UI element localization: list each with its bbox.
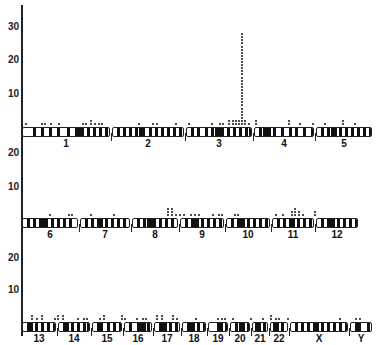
count-dot — [342, 123, 344, 125]
count-dot — [241, 46, 243, 48]
count-dot — [244, 120, 246, 122]
count-dot — [342, 120, 344, 122]
band — [143, 219, 146, 227]
band — [281, 323, 284, 331]
count-dot — [314, 211, 316, 213]
band — [295, 128, 298, 136]
count-dot — [71, 214, 73, 216]
band — [205, 128, 208, 136]
band — [273, 128, 276, 136]
chromosome-label: 5 — [334, 139, 354, 149]
count-dot — [176, 318, 178, 320]
count-dot — [294, 214, 296, 216]
count-dot — [195, 318, 197, 320]
band — [221, 128, 224, 136]
chromosome-label: Y — [351, 334, 371, 344]
count-dot — [41, 318, 43, 320]
count-dot — [86, 318, 88, 320]
chromosome-row: 6789101112 — [21, 218, 386, 230]
band — [137, 219, 140, 227]
count-dot — [172, 315, 174, 317]
centromere — [255, 323, 261, 331]
count-dot — [241, 120, 243, 122]
band — [211, 128, 214, 136]
count-dot — [298, 211, 300, 213]
count-dot — [232, 123, 234, 125]
band — [33, 219, 36, 227]
count-dot — [36, 318, 38, 320]
band — [337, 219, 340, 227]
count-dot — [142, 318, 144, 320]
band — [35, 323, 38, 331]
band — [369, 128, 372, 136]
count-dot — [62, 315, 64, 317]
chromosome-boundary-tick — [21, 133, 22, 141]
band — [175, 323, 178, 331]
band — [355, 219, 358, 227]
count-dot — [25, 123, 27, 125]
centromere — [265, 128, 271, 136]
count-dot — [241, 42, 243, 44]
band — [263, 323, 266, 331]
count-dot — [241, 108, 243, 110]
chromosome-16 — [124, 322, 152, 332]
centromere — [289, 219, 295, 227]
band — [333, 323, 336, 331]
chromosome-label: 16 — [128, 334, 148, 344]
band — [357, 128, 360, 136]
count-dot — [255, 120, 257, 122]
count-dot — [171, 208, 173, 210]
band — [155, 128, 158, 136]
chromosome-20 — [230, 322, 250, 332]
count-dot — [156, 318, 158, 320]
chromosome-label: 11 — [283, 230, 303, 240]
band — [77, 323, 80, 331]
band — [281, 128, 284, 136]
chromosome-boundary-tick — [79, 224, 80, 232]
chromosome-21 — [252, 322, 268, 332]
band — [51, 219, 54, 227]
band — [71, 323, 74, 331]
count-dot — [171, 214, 173, 216]
count-dot — [219, 123, 221, 125]
count-dot — [113, 214, 115, 216]
count-dot — [238, 123, 240, 125]
count-dot — [244, 123, 246, 125]
band — [259, 219, 262, 227]
chromosome-X — [290, 322, 348, 332]
count-dot — [228, 123, 230, 125]
chromosome-boundary-tick — [153, 328, 154, 336]
y-tick-label: 20 — [1, 253, 19, 263]
count-dot — [194, 214, 196, 216]
chromosome-label: X — [309, 334, 329, 344]
chromosome-2 — [112, 127, 184, 137]
chromosome-label: 10 — [238, 230, 258, 240]
band — [93, 128, 96, 136]
count-dot — [224, 318, 226, 320]
band — [109, 128, 110, 136]
chromosome-label: 22 — [269, 334, 289, 344]
count-dot — [237, 214, 239, 216]
band — [153, 219, 156, 227]
count-dot — [241, 33, 243, 35]
centromere — [137, 323, 143, 331]
count-dot — [270, 315, 272, 317]
band — [123, 128, 126, 136]
chromosome-row: 13141516171819202122XY — [21, 322, 386, 334]
chromosome-12 — [316, 218, 358, 228]
chromosome-boundary-tick — [131, 224, 132, 232]
band — [287, 323, 288, 331]
band — [105, 219, 108, 227]
count-dot — [339, 318, 341, 320]
band — [33, 128, 36, 136]
count-dot — [355, 318, 357, 320]
band — [47, 323, 50, 331]
band — [259, 128, 262, 136]
centromere — [239, 323, 245, 331]
count-dot — [217, 318, 219, 320]
count-dot — [238, 120, 240, 122]
count-dot — [250, 318, 252, 320]
centromere — [355, 323, 361, 331]
y-axis-line — [21, 5, 23, 336]
count-dot — [41, 123, 43, 125]
